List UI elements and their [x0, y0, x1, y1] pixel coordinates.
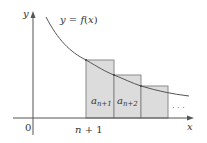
ellipsis: · · · — [172, 103, 185, 112]
x-axis-arrow-icon — [187, 116, 194, 121]
rectangle-a-n-plus-1 — [86, 60, 114, 118]
tick-label-n-plus-1: n + 1 — [75, 124, 103, 135]
x-axis-label: x — [187, 121, 193, 132]
origin-label: 0 — [25, 122, 31, 133]
y-axis-label: y — [22, 8, 29, 19]
curve-point — [85, 59, 87, 61]
y-axis-arrow-icon — [31, 11, 36, 18]
diagram: y y = f(x) an+1 an+2 · · · 0 n + 1 x — [0, 0, 207, 143]
rectangle-a-n-plus-3 — [141, 86, 168, 118]
curve-point — [113, 74, 115, 76]
curve-label: y = f(x) — [59, 14, 98, 25]
curve-point — [140, 85, 142, 87]
